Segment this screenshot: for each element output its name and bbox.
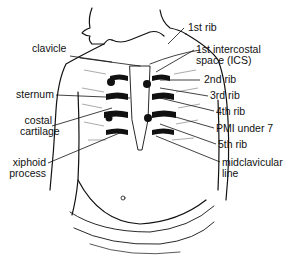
label-2nd-rib: 2nd rib xyxy=(204,74,236,85)
label-midclavicular-line: midclavicular line xyxy=(222,157,283,179)
label-costal-cartilage: costal cartilage xyxy=(20,115,52,137)
label-pmi: PMI under 7 xyxy=(216,123,273,134)
label-text: 2nd rib xyxy=(204,74,236,85)
label-text: 5th rib xyxy=(218,139,247,150)
label-1st-rib: 1st rib xyxy=(188,22,217,33)
label-3rd-rib: 3rd rib xyxy=(210,90,240,101)
label-5th-rib: 5th rib xyxy=(218,139,247,150)
label-text: PMI under 7 xyxy=(216,123,273,134)
label-text: 3rd rib xyxy=(210,90,240,101)
label-clavicle: clavicle xyxy=(32,43,66,54)
label-text: clavicle xyxy=(32,43,66,54)
label-text: cartilage xyxy=(20,126,52,137)
label-text: line xyxy=(222,168,283,179)
label-xiphoid-process: xiphoid process xyxy=(6,157,46,179)
label-1st-intercostal-space: 1st intercostal space (ICS) xyxy=(196,44,261,66)
label-text: 4th rib xyxy=(216,106,245,117)
chest-anatomy-diagram: clavicle sternum costal cartilage xiphoi… xyxy=(0,0,290,264)
label-sternum: sternum xyxy=(16,89,54,100)
label-text: space (ICS) xyxy=(196,55,261,66)
label-text: sternum xyxy=(16,89,54,100)
label-text: process xyxy=(6,168,46,179)
label-text: 1st rib xyxy=(188,22,217,33)
label-4th-rib: 4th rib xyxy=(216,106,245,117)
